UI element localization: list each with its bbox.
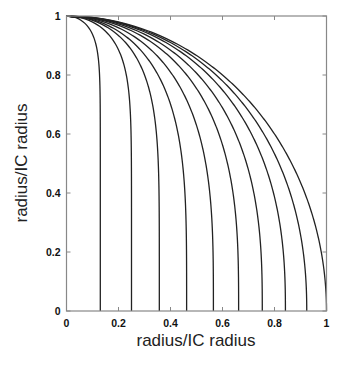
x-tick-label: 0.4 bbox=[163, 317, 178, 329]
x-tick-label: 0.6 bbox=[215, 317, 230, 329]
y-axis-label: radius/IC radius bbox=[12, 103, 31, 222]
x-axis-label: radius/IC radius bbox=[136, 331, 255, 350]
plot-frame bbox=[67, 16, 327, 311]
x-tick-label: 0.2 bbox=[111, 317, 126, 329]
curve-line bbox=[67, 16, 286, 311]
y-tick-label: 0.8 bbox=[46, 69, 61, 81]
curve-line bbox=[67, 16, 187, 311]
curve-line bbox=[67, 16, 160, 311]
curve-line bbox=[67, 16, 263, 311]
y-tick-label: 0 bbox=[55, 305, 61, 317]
x-tick-label: 0.8 bbox=[267, 317, 282, 329]
y-tick-label: 0.4 bbox=[46, 187, 61, 199]
x-tick-label: 0 bbox=[64, 317, 70, 329]
x-tick-label: 1 bbox=[324, 317, 330, 329]
x-axis: 00.20.40.60.81 bbox=[64, 16, 330, 329]
curve-group bbox=[67, 16, 327, 311]
chart: 00.20.40.60.81 00.20.40.60.81 radius/IC … bbox=[0, 0, 346, 368]
y-tick-label: 0.6 bbox=[46, 128, 61, 140]
curve-line bbox=[67, 16, 327, 311]
y-tick-label: 0.2 bbox=[46, 246, 61, 258]
y-tick-label: 1 bbox=[55, 10, 61, 22]
curve-line bbox=[67, 16, 101, 311]
